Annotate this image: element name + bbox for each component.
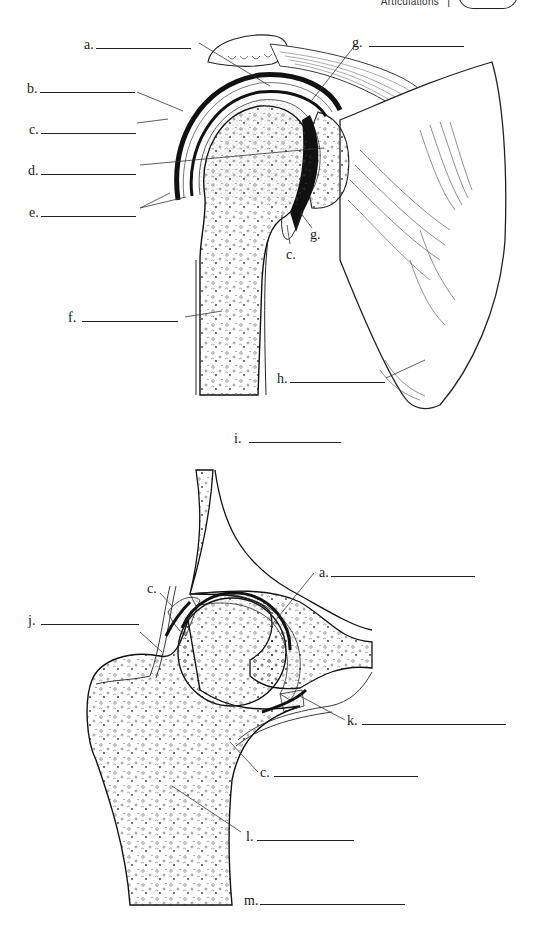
hip-label-a: a. <box>319 566 475 580</box>
hip-label-c-lower: c. <box>260 766 418 780</box>
anatomy-illustrations <box>0 0 534 928</box>
answer-blank[interactable] <box>290 381 385 383</box>
answer-blank[interactable] <box>40 91 135 93</box>
shoulder-label-c-inline: c. <box>286 248 296 262</box>
answer-blank[interactable] <box>41 132 136 134</box>
label-letter: h. <box>277 372 288 386</box>
label-letter: e. <box>29 206 39 220</box>
label-letter: d. <box>28 164 39 178</box>
answer-blank[interactable] <box>41 215 136 217</box>
answer-blank[interactable] <box>362 723 506 725</box>
answer-blank[interactable] <box>331 575 475 577</box>
label-letter: a. <box>319 566 329 580</box>
answer-blank[interactable] <box>369 45 464 47</box>
label-letter: j. <box>28 614 35 628</box>
label-letter: l. <box>246 830 253 844</box>
label-letter: f. <box>68 311 76 325</box>
hip-label-l: l. <box>246 830 354 844</box>
answer-blank[interactable] <box>41 623 139 625</box>
shoulder-label-g: g. <box>352 36 464 50</box>
answer-blank[interactable] <box>274 775 418 777</box>
answer-blank[interactable] <box>41 173 136 175</box>
shoulder-label-e: e. <box>29 206 136 220</box>
shoulder-label-c: c. <box>29 123 136 137</box>
hip-label-c-upper: c. <box>147 582 157 596</box>
answer-blank[interactable] <box>260 903 405 905</box>
label-letter: c. <box>260 766 270 780</box>
hip-label-k: k. <box>347 714 506 728</box>
shoulder-title-label-i: i. <box>234 432 341 446</box>
label-letter: m. <box>244 894 258 908</box>
answer-blank[interactable] <box>82 320 178 322</box>
label-letter: k. <box>347 714 358 728</box>
label-letter: c. <box>29 123 39 137</box>
answer-blank[interactable] <box>249 441 341 443</box>
shoulder-joint-diagram <box>177 35 506 409</box>
shoulder-label-f: f. <box>68 311 178 325</box>
answer-blank[interactable] <box>96 47 191 49</box>
shoulder-label-h: h. <box>277 372 385 386</box>
label-letter: g. <box>352 36 363 50</box>
shoulder-label-b: b. <box>27 82 135 96</box>
answer-blank[interactable] <box>257 839 354 841</box>
hip-label-m: m. <box>244 894 405 908</box>
label-letter: a. <box>84 38 94 52</box>
label-letter: b. <box>27 82 38 96</box>
shoulder-label-a: a. <box>84 38 191 52</box>
hip-label-j: j. <box>28 614 139 628</box>
shoulder-label-g-inline: g. <box>310 228 321 242</box>
shoulder-label-d: d. <box>28 164 136 178</box>
label-letter: i. <box>234 432 241 446</box>
